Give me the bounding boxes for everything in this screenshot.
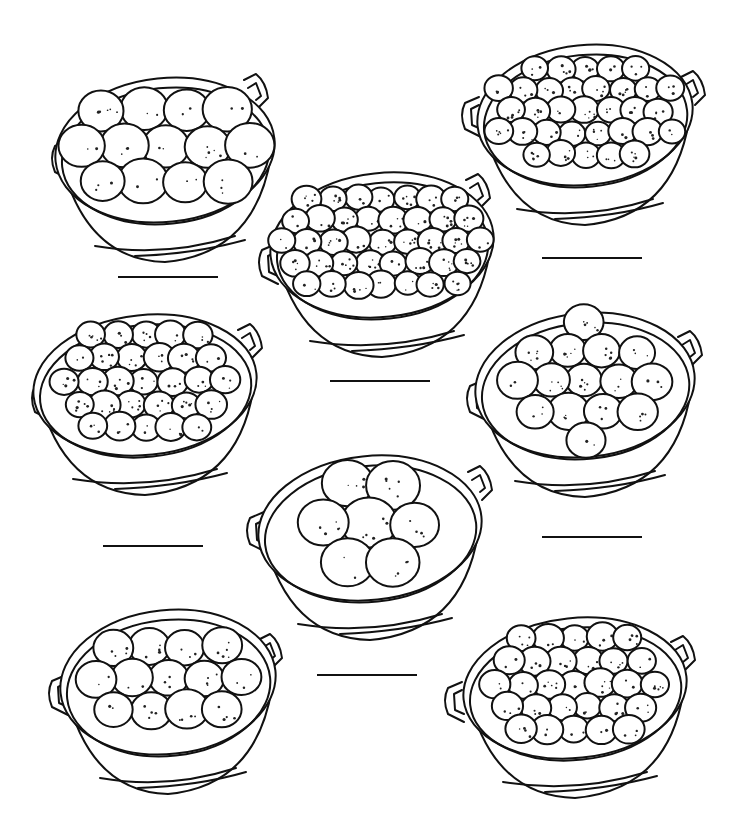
orange [659, 120, 685, 144]
orange [293, 271, 320, 296]
orange-bowl [462, 34, 705, 225]
orange-bowl [467, 302, 702, 497]
orange [550, 334, 586, 367]
orange-bowl [247, 445, 492, 640]
orange [366, 538, 420, 586]
orange [50, 369, 79, 395]
orange [268, 228, 295, 252]
orange [118, 158, 168, 203]
orange [58, 125, 104, 167]
orange [546, 140, 575, 166]
orange [656, 75, 684, 100]
orange [417, 272, 444, 297]
orange [204, 160, 253, 204]
orange [454, 249, 481, 273]
orange [222, 659, 262, 695]
orange [484, 118, 513, 144]
orange [78, 413, 107, 439]
orange [344, 272, 374, 299]
orange [566, 422, 605, 457]
orange [613, 715, 645, 744]
orange [620, 141, 650, 168]
orange [613, 625, 641, 650]
orange [618, 394, 658, 431]
bowl-handle-left [445, 682, 464, 722]
orange-bowl [445, 607, 695, 798]
worksheet-canvas [0, 0, 735, 827]
orange [210, 366, 240, 393]
orange-bowl [26, 304, 263, 495]
orange [202, 691, 242, 727]
orange [65, 345, 93, 370]
orange [445, 272, 471, 296]
orange-bowl [259, 162, 501, 357]
orange [81, 161, 125, 201]
orange [104, 412, 136, 441]
orange [517, 395, 554, 429]
orange-bowl [49, 599, 283, 794]
orange-bowl [48, 67, 282, 262]
orange [317, 271, 345, 297]
orange [497, 362, 538, 399]
orange [182, 414, 211, 440]
orange [566, 364, 602, 397]
orange [94, 692, 132, 727]
orange [505, 715, 536, 743]
orange [467, 228, 494, 252]
orange [163, 162, 207, 202]
orange [583, 334, 620, 367]
orange [112, 659, 153, 696]
orange [523, 143, 549, 167]
orange [202, 627, 242, 663]
